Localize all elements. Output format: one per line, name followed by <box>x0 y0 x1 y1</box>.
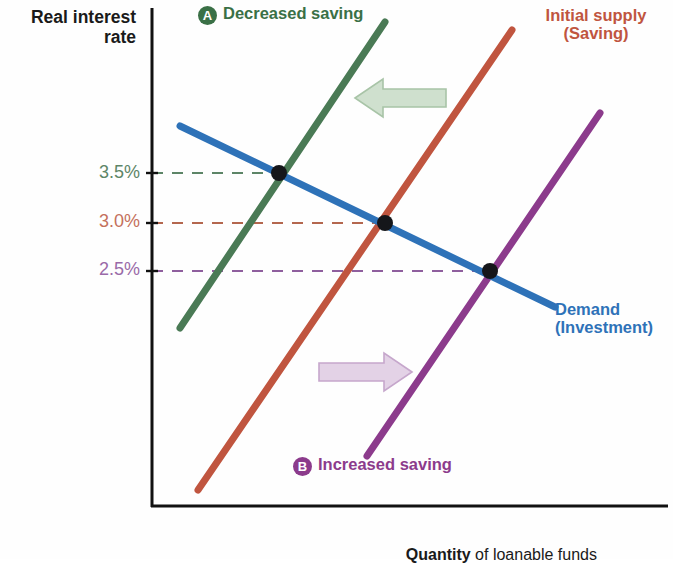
y-tick-label-2-5: 2.5% <box>48 259 140 279</box>
increased-saving-curve <box>367 113 600 456</box>
equilibrium-dot-2-5 <box>482 263 498 279</box>
leftward-shift-arrow <box>355 79 446 117</box>
demand-curve <box>180 126 555 307</box>
callout-decreased-saving: A Decreased saving <box>198 4 363 25</box>
callout-b-label: Increased saving <box>318 455 452 473</box>
equilibrium-dot-3-5 <box>271 165 287 181</box>
initial-supply-curve-label: Initial supply (Saving) <box>521 6 671 43</box>
x-axis-title-bold: Quantity <box>406 546 471 563</box>
x-axis-title-rest: of loanable funds <box>471 546 597 563</box>
y-tick-label-3-5: 3.5% <box>48 162 140 182</box>
x-axis-title: Quantity of loanable funds <box>388 528 597 567</box>
rightward-shift-arrow <box>319 353 412 391</box>
equilibrium-dot-3-0 <box>377 215 393 231</box>
y-axis-title: Real interest rate <box>4 8 136 47</box>
badge-a-icon: A <box>198 6 217 25</box>
y-tick-label-3-0: 3.0% <box>48 211 140 231</box>
badge-b-icon: B <box>293 457 312 476</box>
callout-increased-saving: B Increased saving <box>293 455 452 476</box>
demand-curve-label: Demand (Investment) <box>555 300 673 337</box>
callout-a-label: Decreased saving <box>223 4 363 22</box>
